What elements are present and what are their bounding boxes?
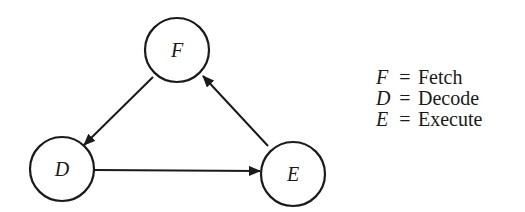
node-fetch-label: F	[170, 39, 184, 61]
node-execute-label: E	[286, 163, 299, 185]
node-decode: D	[30, 137, 94, 201]
legend-symbol: D	[376, 88, 392, 109]
legend-item-fetch: F=Fetch	[376, 67, 482, 88]
node-fetch: F	[145, 18, 209, 82]
legend-symbol: E	[376, 109, 392, 130]
legend: F=Fetch D=Decode E=Execute	[376, 67, 482, 130]
legend-equals: =	[392, 67, 418, 88]
node-execute: E	[261, 142, 325, 206]
legend-meaning: Fetch	[418, 66, 462, 88]
legend-symbol: F	[376, 67, 392, 88]
edge-fetch-to-decode	[84, 77, 153, 145]
legend-meaning: Decode	[418, 87, 479, 109]
edge-execute-to-fetch	[203, 76, 268, 146]
legend-item-execute: E=Execute	[376, 109, 482, 130]
legend-item-decode: D=Decode	[376, 88, 482, 109]
edge-decode-to-execute	[95, 170, 260, 171]
legend-equals: =	[392, 109, 418, 130]
node-decode-label: D	[54, 158, 70, 180]
legend-meaning: Execute	[418, 108, 482, 130]
legend-equals: =	[392, 88, 418, 109]
